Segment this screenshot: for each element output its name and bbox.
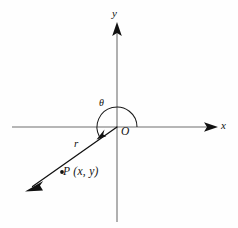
angle-theta-label: θ xyxy=(99,98,104,108)
polar-coordinate-figure: y x O θ r P (x, y) xyxy=(0,0,238,228)
radius-label: r xyxy=(74,138,78,149)
y-axis-label: y xyxy=(112,8,117,19)
figure-canvas xyxy=(0,0,238,228)
x-axis-label: x xyxy=(221,120,226,131)
terminal-ray-arrowhead-icon xyxy=(25,181,43,192)
point-p-label: P (x, y) xyxy=(63,166,99,178)
origin-label: O xyxy=(121,126,129,138)
